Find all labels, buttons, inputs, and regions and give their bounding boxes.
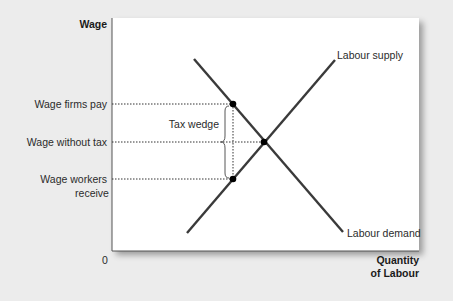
workers-receive-point [230, 176, 237, 183]
wage-workers-receive-label-line2: receive [75, 187, 109, 199]
x-axis-label-line2: of Labour [371, 267, 419, 279]
x-axis-label-line1: Quantity [376, 254, 419, 266]
equilibrium-point [261, 139, 268, 146]
tax-wedge-label: Tax wedge [169, 118, 219, 130]
labour-demand-label: Labour demand [347, 227, 421, 239]
wage-firms-pay-label: Wage firms pay [34, 98, 107, 110]
y-axis-label: Wage [79, 18, 107, 30]
wage-without-tax-label: Wage without tax [27, 136, 108, 148]
origin-label: 0 [102, 254, 108, 266]
firms-pay-point [230, 101, 237, 108]
tax-wedge-chart: Wage Wage firms pay Wage without tax Wag… [0, 0, 453, 301]
wage-workers-receive-label-line1: Wage workers [40, 173, 107, 185]
labour-supply-label: Labour supply [337, 49, 404, 61]
